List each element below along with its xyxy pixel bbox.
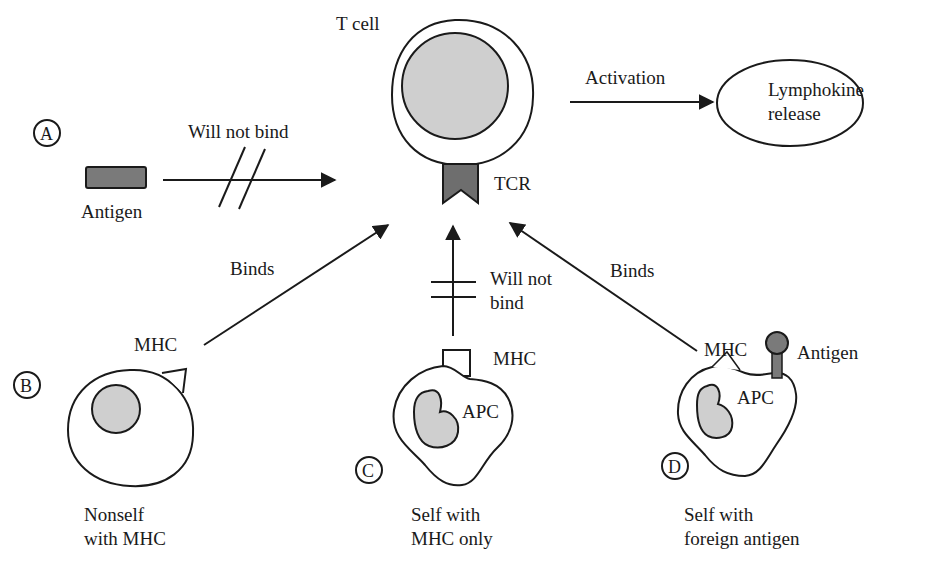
activation: Activation Lymphokine release — [570, 60, 864, 146]
panel-d-mhc-label: MHC — [704, 339, 747, 360]
panel-c-arrow-label-line1: Will not — [490, 268, 553, 289]
panel-d-antigen-label: Antigen — [797, 342, 859, 363]
lymphokine-label-line2: release — [768, 103, 821, 124]
lymphokine-label-line1: Lymphokine — [768, 79, 864, 100]
activation-label: Activation — [585, 67, 666, 88]
panel-b-mhc-label: MHC — [134, 334, 177, 355]
panel-d-caption-line2: foreign antigen — [684, 528, 800, 549]
panel-c-marker-letter: C — [362, 461, 374, 481]
panel-c-mhc-label: MHC — [493, 348, 536, 369]
antigen-block-icon — [86, 167, 146, 188]
tcr-receptor-icon — [443, 164, 478, 203]
mhc-triangle-icon — [162, 369, 186, 393]
panel-c-caption-line1: Self with — [411, 504, 481, 525]
panel-c-caption-line2: MHC only — [411, 528, 493, 549]
panel-c-apc-label: APC — [462, 401, 499, 422]
panel-b: B MHC Binds Nonself with MHC — [14, 225, 388, 549]
panel-b-marker-letter: B — [20, 376, 32, 396]
tcr-label: TCR — [494, 173, 531, 194]
panel-c: Will not bind MHC APC C Self with MHC on… — [356, 226, 553, 549]
panel-b-caption-line1: Nonself — [84, 504, 145, 525]
panel-a-block-mark-1 — [219, 147, 245, 207]
panel-a-marker-letter: A — [40, 124, 53, 144]
tcell-label: T cell — [336, 13, 379, 34]
panel-a: A Antigen Will not bind — [34, 120, 335, 222]
panel-d-marker-letter: D — [668, 457, 681, 477]
panel-d-apc-label: APC — [737, 387, 774, 408]
nonself-cell-nucleus — [92, 385, 140, 433]
antigen-label: Antigen — [81, 201, 143, 222]
panel-d-caption-line1: Self with — [684, 504, 754, 525]
bound-antigen-head-icon — [766, 332, 788, 354]
tcell-binding-diagram: T cell TCR Activation Lymphokine release… — [0, 0, 948, 576]
panel-d-apc-membrane — [678, 366, 796, 476]
tcell: T cell TCR — [336, 13, 533, 203]
panel-a-arrow-label: Will not bind — [188, 121, 289, 142]
tcell-nucleus — [402, 33, 508, 139]
panel-c-arrow-label-line2: bind — [490, 292, 524, 313]
panel-d: Binds MHC Antigen APC D Self with foreig… — [510, 223, 859, 549]
panel-b-arrow — [204, 225, 388, 345]
panel-d-arrow-label: Binds — [610, 260, 654, 281]
panel-b-arrow-label: Binds — [230, 258, 274, 279]
panel-b-caption-line2: with MHC — [84, 528, 166, 549]
